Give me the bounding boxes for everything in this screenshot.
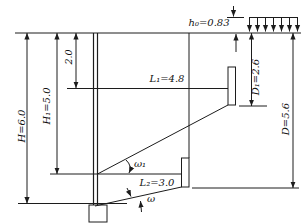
D-label: D=5.6 bbox=[280, 102, 291, 136]
upper-failure-plane-line bbox=[98, 105, 229, 174]
omega-label: ω bbox=[147, 193, 155, 204]
surcharge-height-label: h₀=0.83 bbox=[188, 17, 229, 28]
L2-label: L₂=3.0 bbox=[139, 177, 176, 188]
omega-upper-arrow bbox=[127, 188, 131, 197]
L1-label: L₁=4.8 bbox=[149, 73, 185, 84]
tie1-depth-label: 2.0 bbox=[63, 49, 74, 65]
omega-lower-arrow bbox=[141, 201, 142, 212]
wall-footing-block bbox=[89, 205, 107, 222]
surcharge-arrows bbox=[250, 18, 298, 32]
lower-anchor-plate bbox=[182, 158, 190, 187]
retaining-wall-diagram: h₀=0.83 H=6.0 H₁=5.0 2.0 L₁=4.8 D₁=2.6 L… bbox=[0, 0, 307, 224]
H-dim-label: H=6.0 bbox=[16, 109, 27, 144]
H1-dim-label: H₁=5.0 bbox=[41, 87, 52, 126]
D1-label: D₁=2.6 bbox=[250, 58, 261, 96]
omega1-arc-arrow bbox=[126, 160, 130, 173]
diagram-page: h₀=0.83 H=6.0 H₁=5.0 2.0 L₁=4.8 D₁=2.6 L… bbox=[0, 0, 307, 224]
lower-failure-plane-line bbox=[95, 187, 182, 206]
upper-anchor-plate bbox=[228, 67, 236, 105]
omega1-label: ω₁ bbox=[134, 158, 146, 169]
